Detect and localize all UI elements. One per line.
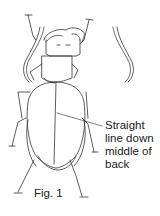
- legs: [9, 64, 98, 197]
- antennae: [24, 15, 134, 82]
- annotation-line-3: middle of: [105, 145, 154, 158]
- annotation-leader-line: [57, 113, 102, 126]
- annotation-line-1: Straight: [105, 119, 154, 132]
- pronotum: [42, 56, 72, 83]
- elytra: [27, 82, 86, 170]
- straight-midline: [54, 84, 56, 164]
- annotation-line-2: line down: [105, 132, 154, 145]
- annotation-line-4: back: [105, 158, 154, 171]
- figure-caption: Fig. 1: [34, 187, 63, 200]
- head: [44, 28, 84, 56]
- annotation-text: Straight line down middle of back: [105, 119, 154, 171]
- beetle-illustration: [0, 0, 160, 216]
